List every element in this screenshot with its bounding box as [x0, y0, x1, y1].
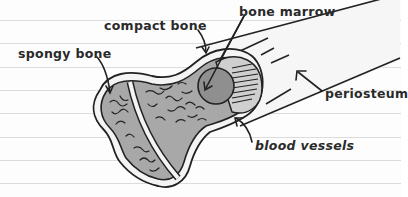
- label-spongy-bone: spongy bone: [18, 48, 112, 61]
- label-periosteum: periosteum: [325, 88, 408, 101]
- label-bone-marrow: bone marrow: [239, 6, 336, 19]
- label-blood-vessels: blood vessels: [255, 140, 354, 153]
- label-compact-bone: compact bone: [104, 20, 207, 33]
